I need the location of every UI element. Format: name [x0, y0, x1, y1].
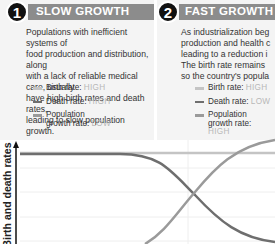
stage-1-panel: 1 SLOW GROWTH Populations with inefficie… — [0, 0, 154, 140]
legend-item-death-rate: Death rate: HIGH — [33, 98, 111, 107]
death-rate-swatch-icon — [33, 101, 42, 104]
death-rate-swatch-icon — [195, 101, 204, 104]
growth-rate-line — [145, 140, 275, 244]
legend-item-growth-rate: Population growth rate: HIGH — [195, 111, 275, 137]
y-axis-label: Birth and death rates — [0, 146, 14, 244]
legend-item-birth-rate: Birth rate: HIGH — [195, 84, 275, 93]
stage-2-title: FAST GROWTH — [185, 5, 273, 17]
stage-1-legend: Birth rate: HIGH Death rate: HIGH Popula… — [33, 84, 111, 133]
birth-rate-swatch-icon — [195, 87, 204, 90]
stage-2-legend: Birth rate: HIGH Death rate: LOW Populat… — [195, 84, 275, 142]
legend-item-birth-rate: Birth rate: HIGH — [33, 84, 111, 93]
stage-2-panel: 2 FAST GROWTH As industrialization beg p… — [157, 0, 275, 140]
stage-2-description: As industrialization beg production and … — [181, 27, 275, 82]
stage-2-number-badge: 2 — [157, 1, 179, 23]
death-rate-line — [20, 154, 275, 242]
growth-rate-swatch-icon — [33, 114, 42, 117]
stage-1-number-badge: 1 — [6, 1, 28, 23]
birth-rate-swatch-icon — [33, 87, 42, 90]
stage-1-title: SLOW GROWTH — [36, 5, 129, 17]
legend-item-growth-rate: Population growth rate: LOW — [33, 111, 111, 128]
growth-rate-swatch-icon — [195, 114, 204, 117]
gridlines — [20, 140, 275, 244]
legend-item-death-rate: Death rate: LOW — [195, 98, 275, 107]
